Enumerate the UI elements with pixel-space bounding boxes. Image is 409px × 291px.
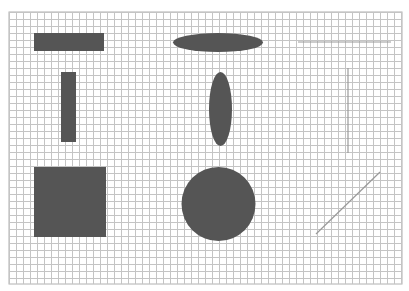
vertical-rectangle[interactable]: [61, 72, 76, 142]
drawing-canvas[interactable]: [0, 0, 409, 291]
vertical-ellipse[interactable]: [209, 72, 232, 146]
circle[interactable]: [182, 167, 256, 241]
grid-background: [9, 12, 402, 284]
horizontal-rectangle[interactable]: [34, 33, 104, 51]
square[interactable]: [34, 167, 106, 237]
horizontal-ellipse[interactable]: [173, 33, 263, 52]
